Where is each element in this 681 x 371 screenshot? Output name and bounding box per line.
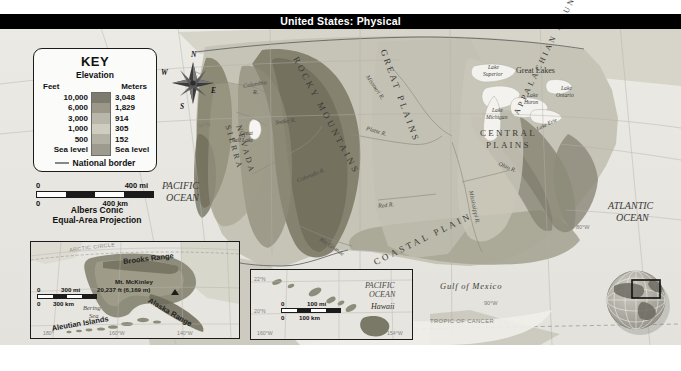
key-color-swatch — [91, 113, 111, 124]
key-header-meters: Meters — [121, 82, 147, 91]
alaska-scale-km-row: 0 300 km — [37, 300, 97, 307]
key-meters-value: 305 — [111, 124, 150, 133]
key-meters-value: 152 — [111, 135, 150, 144]
alaska-scale-km-zero: 0 — [37, 300, 45, 307]
alaska-inset-map[interactable]: ARCTIC CIRCLE Brooks Range Mt. McKinley … — [30, 241, 240, 339]
alaska-scale-bar: 0 300 mi 0 300 km — [37, 286, 97, 307]
main-scale-bar: 0 400 mi 0 400 km — [36, 181, 154, 208]
hawaii-scale-miles-zero: 0 — [281, 300, 289, 307]
hawaii-scale-bar: 0 100 mi 0 100 km — [281, 300, 341, 321]
key-color-swatch — [91, 134, 111, 145]
grid-label-tropic-of-cancer: TROPIC OF CANCER — [430, 318, 494, 324]
compass-label-east: E — [211, 86, 216, 95]
projection-note: Albers Conic Equal-Area Projection — [24, 206, 170, 226]
scale-bar-graphic — [36, 191, 154, 198]
key-color-swatch — [91, 92, 111, 104]
map-page: United States: Physical ROCKY MOUNTAINS … — [0, 0, 681, 371]
key-meters-value: 3,048 — [111, 93, 150, 102]
key-row: 6,000 1,829 — [40, 103, 150, 114]
key-column-headers: Feet Meters — [40, 82, 150, 91]
national-border-line-icon — [55, 161, 69, 165]
key-title: KEY — [40, 54, 150, 69]
compass-rose: N E S W — [160, 52, 226, 114]
key-header-feet: Feet — [43, 82, 59, 91]
key-elevation-rows: 10,000 3,048 6,000 1,829 3,000 914 1,000… — [40, 92, 150, 155]
key-row: 1,000 305 — [40, 124, 150, 135]
key-row: 10,000 3,048 — [40, 92, 150, 103]
key-feet-value: 1,000 — [40, 124, 91, 133]
key-meters-value: 1,829 — [111, 103, 150, 112]
alaska-scale-km-label: 300 km — [45, 300, 74, 307]
compass-rose-icon — [160, 52, 226, 114]
hawaii-scale-miles-label: 100 mi — [289, 300, 326, 307]
scale-miles-zero: 0 — [36, 181, 40, 190]
page-title: United States: Physical — [0, 14, 681, 29]
scale-miles-row: 0 400 mi — [36, 181, 154, 190]
hawaii-scale-bar-graphic — [281, 308, 341, 314]
globe-locator-icon — [598, 262, 674, 338]
key-border-label: National border — [73, 158, 136, 168]
compass-label-west: W — [161, 68, 168, 77]
key-national-border-entry: National border — [40, 158, 150, 168]
key-meters-value: 914 — [111, 114, 150, 123]
compass-label-north: N — [191, 50, 196, 59]
key-row: 500 152 — [40, 134, 150, 145]
key-color-swatch — [91, 103, 111, 114]
alaska-scale-miles-label: 300 mi — [45, 286, 80, 293]
map-key-legend: KEY Elevation Feet Meters 10,000 3,048 6… — [33, 48, 157, 172]
hawaii-scale-km-row: 0 100 km — [281, 314, 341, 321]
hawaii-inset-map[interactable]: 22°N 20°N 160°W 154°W PACIFIC OCEAN Hawa… — [250, 269, 413, 340]
scale-miles-label: 400 mi — [125, 181, 154, 190]
key-row: 3,000 914 — [40, 113, 150, 124]
hawaii-scale-km-zero: 0 — [281, 314, 289, 321]
globe-locator-inset — [598, 262, 674, 338]
alaska-scale-bar-graphic — [37, 294, 97, 300]
hawaii-scale-miles-row: 0 100 mi — [281, 300, 341, 307]
key-feet-value: Sea level — [40, 145, 91, 154]
key-feet-value: 500 — [40, 135, 91, 144]
alaska-scale-miles-row: 0 300 mi — [37, 286, 97, 293]
key-feet-value: 6,000 — [40, 103, 91, 112]
projection-line-2: Equal-Area Projection — [24, 216, 170, 226]
key-subtitle: Elevation — [40, 70, 150, 80]
key-row: Sea level Sea level — [40, 145, 150, 156]
compass-label-south: S — [180, 102, 184, 111]
hawaii-scale-km-label: 100 km — [289, 314, 320, 321]
key-meters-value: Sea level — [111, 145, 150, 154]
alaska-scale-miles-zero: 0 — [37, 286, 45, 293]
key-color-swatch — [91, 124, 111, 135]
key-feet-value: 10,000 — [40, 93, 91, 102]
key-feet-value: 3,000 — [40, 114, 91, 123]
key-color-swatch — [91, 144, 111, 156]
